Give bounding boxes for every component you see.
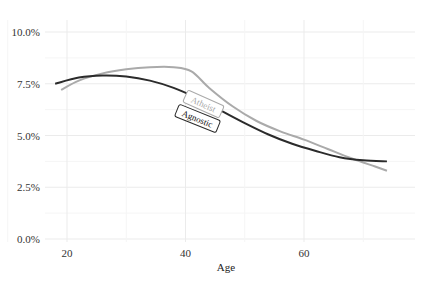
- series-lines: [55, 67, 387, 171]
- line-chart: 0.0%2.5%5.0%7.5%10.0% 204060 AtheistAgno…: [0, 0, 423, 282]
- y-tick-label: 7.5%: [17, 78, 40, 90]
- x-tick-label: 40: [180, 247, 192, 259]
- y-tick-label: 10.0%: [12, 26, 40, 38]
- x-tick-label: 20: [62, 247, 74, 259]
- y-tick-label: 2.5%: [17, 181, 40, 193]
- series-line-agnostic: [55, 75, 387, 161]
- x-axis: 204060: [62, 247, 311, 259]
- y-tick-label: 5.0%: [17, 130, 40, 142]
- y-axis: 0.0%2.5%5.0%7.5%10.0%: [12, 26, 40, 245]
- series-line-atheist: [61, 67, 387, 171]
- series-labels: AtheistAgnostic: [175, 90, 225, 133]
- y-tick-label: 0.0%: [17, 233, 40, 245]
- x-axis-label: Age: [217, 261, 235, 273]
- x-tick-label: 60: [299, 247, 311, 259]
